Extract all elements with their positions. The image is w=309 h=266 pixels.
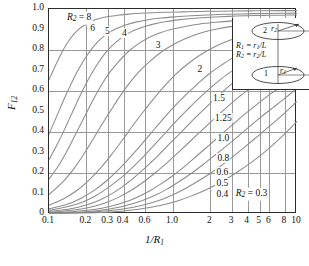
x-axis-title: 1/R1 <box>0 233 309 247</box>
y-tick-label: 0.7 <box>14 65 44 75</box>
curve-label-r2-4: 4 <box>121 28 128 38</box>
curve-label-r2-1.25: 1.25 <box>214 113 233 123</box>
x-tick-label: 0.6 <box>139 215 151 225</box>
curve-label-r2-0.5: 0.5 <box>215 178 229 188</box>
curve-label-r2-3: 3 <box>155 40 162 50</box>
y-axis-title-subscript: 12 <box>10 96 19 104</box>
y-tick-label: 0.4 <box>14 126 44 136</box>
x-tick-label: 3 <box>229 215 234 225</box>
curve-label-r2-2: 2 <box>197 64 204 74</box>
y-axis-title: F12 <box>5 81 19 125</box>
equation-r1-rhs: = r <box>244 41 257 50</box>
x-tick-label: 8 <box>282 215 287 225</box>
equation-r1-tail: /L <box>259 41 266 50</box>
y-tick-label: 0.9 <box>14 24 44 34</box>
x-axis-tick-labels: 0.10.20.30.40.61.023456810 <box>0 215 309 229</box>
x-axis-title-main: 1/R <box>145 233 160 245</box>
equation-r2: R2 = r2/L <box>236 51 266 61</box>
bottom-radius-subscript: 1 <box>283 69 286 75</box>
bottom-disk-label: 1 <box>264 70 268 79</box>
y-tick-label: 0.3 <box>14 147 44 157</box>
x-tick-label: 0.1 <box>42 215 54 225</box>
top-radius-label: r2 <box>271 25 277 35</box>
y-tick-label: 1.0 <box>14 3 44 13</box>
curve-label-r2-0.8: 0.8 <box>216 153 230 163</box>
x-tick-label: 0.4 <box>117 215 129 225</box>
x-tick-label: 10 <box>291 215 301 225</box>
x-tick-label: 0.3 <box>101 215 113 225</box>
x-tick-label: 4 <box>244 215 249 225</box>
x-tick-label: 1.0 <box>166 215 178 225</box>
curve-label-r2-5: 5 <box>104 26 111 36</box>
x-tick-label: 0.2 <box>79 215 91 225</box>
top-radius-subscript: 2 <box>274 27 277 33</box>
equation-r2-tail: /L <box>259 50 266 59</box>
y-tick-label: 0.8 <box>14 44 44 54</box>
y-tick-label: 0.2 <box>14 167 44 177</box>
curve-label-r2-0.6: 0.6 <box>215 167 229 177</box>
x-tick-label: 5 <box>256 215 261 225</box>
equation-r2-rhs: = r <box>244 50 257 59</box>
top-disk-label: 2 <box>263 27 267 36</box>
plot-area: R2 = 8654321.51.251.00.80.60.50.4R2 = 0.… <box>48 8 296 213</box>
curve-label-r2-0.4: 0.4 <box>215 189 229 199</box>
curve-label-r2-1.5: 1.5 <box>212 93 226 103</box>
curve-label-r2-0.3: R2 = 0.3 <box>235 188 269 201</box>
x-axis-title-subscript: 1 <box>160 238 164 247</box>
inset-geometry-diagram: 2 r2 1 r1 L R1 = r1/L R2 = r2/L <box>232 18 309 90</box>
x-tick-label: 2 <box>207 215 212 225</box>
curve-label-r2-1.0: 1.0 <box>216 133 230 143</box>
curve-label-r2-6: 6 <box>89 23 96 33</box>
x-tick-label: 6 <box>266 215 271 225</box>
bottom-radius-label: r1 <box>280 67 286 77</box>
y-axis-title-main: F <box>5 103 17 110</box>
view-factor-chart-figure: 00.10.20.30.40.50.60.70.80.91.0 F12 R2 =… <box>0 0 309 266</box>
y-tick-label: 0.1 <box>14 188 44 198</box>
